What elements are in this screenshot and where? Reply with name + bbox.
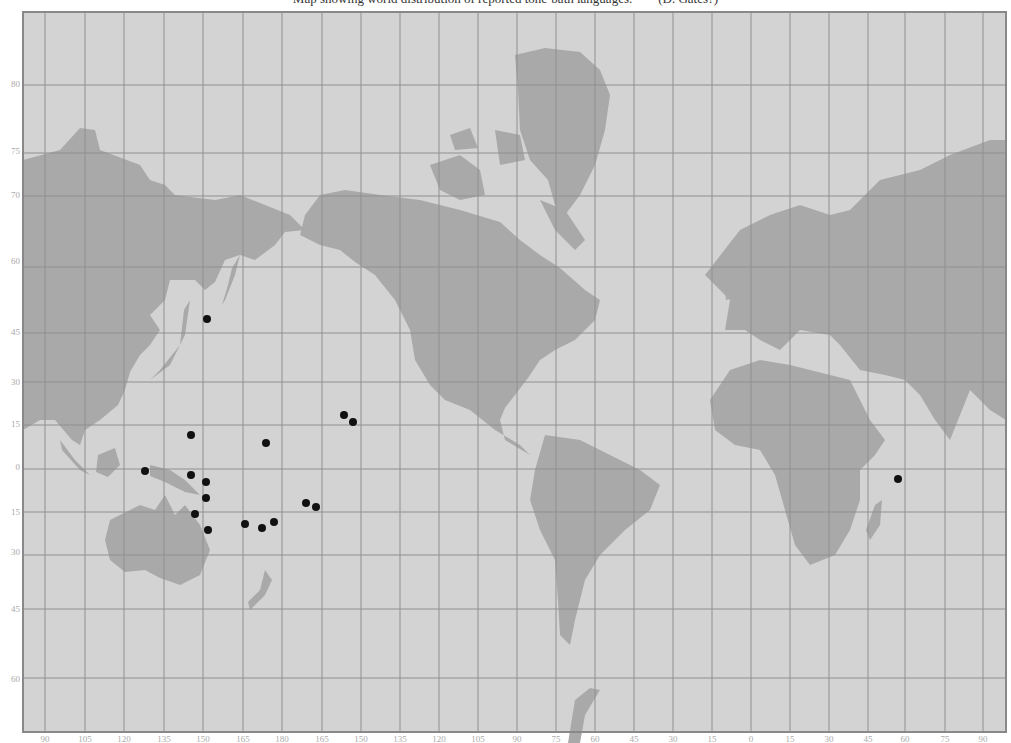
longitude-label: 165: [307, 734, 337, 743]
latitude-label: 15: [0, 419, 20, 429]
longitude-label: 0: [736, 734, 766, 743]
latitude-label: 70: [0, 190, 20, 200]
latitude-label: 80: [0, 79, 20, 89]
longitude-label: 75: [541, 734, 571, 743]
language-location-point: [187, 471, 195, 479]
language-location-point: [258, 524, 266, 532]
language-location-point: [191, 510, 199, 518]
latitude-label: 45: [0, 327, 20, 337]
latitude-label: 30: [0, 547, 20, 557]
language-location-point: [141, 467, 149, 475]
longitude-label: 120: [109, 734, 139, 743]
latitude-label: 45: [0, 604, 20, 614]
language-location-point: [340, 411, 348, 419]
longitude-label: 150: [188, 734, 218, 743]
language-location-point: [349, 418, 357, 426]
language-location-point: [894, 475, 902, 483]
longitude-label: 120: [424, 734, 454, 743]
longitude-label: 15: [697, 734, 727, 743]
longitude-label: 150: [346, 734, 376, 743]
longitude-label: 45: [853, 734, 883, 743]
longitude-label: 105: [70, 734, 100, 743]
longitude-label: 75: [930, 734, 960, 743]
world-map: [0, 0, 1011, 743]
language-location-point: [202, 494, 210, 502]
language-location-point: [202, 478, 210, 486]
language-location-point: [203, 315, 211, 323]
latitude-label: 15: [0, 507, 20, 517]
language-location-point: [270, 518, 278, 526]
longitude-label: 105: [463, 734, 493, 743]
longitude-label: 165: [228, 734, 258, 743]
language-location-point: [241, 520, 249, 528]
latitude-label: 30: [0, 377, 20, 387]
longitude-label: 15: [775, 734, 805, 743]
language-location-point: [302, 499, 310, 507]
longitude-label: 90: [968, 734, 998, 743]
longitude-label: 180: [267, 734, 297, 743]
longitude-label: 135: [149, 734, 179, 743]
language-location-point: [312, 503, 320, 511]
longitude-label: 90: [502, 734, 532, 743]
longitude-label: 60: [890, 734, 920, 743]
latitude-label: 0: [0, 462, 20, 472]
longitude-label: 135: [385, 734, 415, 743]
longitude-label: 30: [814, 734, 844, 743]
longitude-label: 60: [580, 734, 610, 743]
language-location-point: [262, 439, 270, 447]
latitude-label: 60: [0, 674, 20, 684]
longitude-label: 90: [30, 734, 60, 743]
latitude-label: 60: [0, 256, 20, 266]
longitude-label: 30: [658, 734, 688, 743]
latitude-label: 75: [0, 146, 20, 156]
language-location-point: [187, 431, 195, 439]
longitude-label: 45: [619, 734, 649, 743]
language-location-point: [204, 526, 212, 534]
